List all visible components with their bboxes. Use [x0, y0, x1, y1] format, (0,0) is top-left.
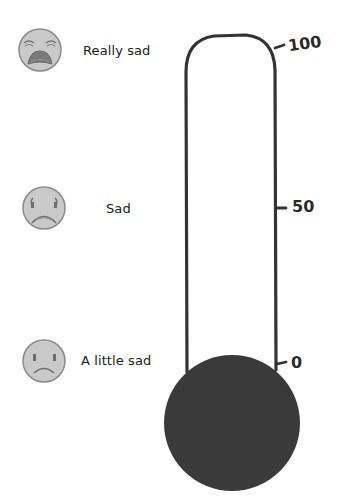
level-label-sad: Sad: [106, 201, 131, 216]
thermometer-tube: [186, 35, 276, 372]
level-label-a-little-sad: A little sad: [81, 353, 151, 368]
slightly-sad-face-icon: [23, 340, 65, 382]
crying-face-icon: [19, 29, 61, 71]
level-label-really-sad: Really sad: [83, 43, 150, 58]
thermometer-diagram: [0, 0, 337, 497]
thermometer-bulb: [164, 355, 300, 491]
tick-label-50: 50: [292, 197, 314, 216]
sad-face-icon: [23, 187, 65, 229]
tick-mark-0: [277, 362, 286, 364]
tick-label-0: 0: [291, 353, 302, 372]
tick-mark-100: [275, 45, 284, 48]
